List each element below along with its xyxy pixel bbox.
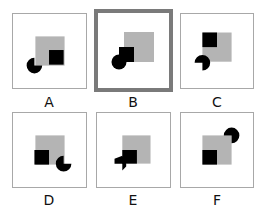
option-e-panel[interactable] — [96, 112, 171, 188]
small-black-square-icon — [202, 33, 217, 48]
option-a-label: A — [39, 95, 59, 109]
small-black-square-icon — [202, 150, 217, 165]
option-a-panel[interactable] — [12, 13, 87, 89]
option-d-panel[interactable] — [12, 112, 87, 188]
option-b-label: B — [123, 95, 143, 109]
option-e-figure — [97, 113, 170, 187]
option-f-label: F — [207, 193, 227, 207]
small-black-square-icon — [34, 150, 49, 165]
pacman-icon — [56, 156, 72, 172]
option-b-figure — [98, 13, 169, 88]
option-c-label: C — [207, 95, 227, 109]
option-a-figure — [13, 14, 86, 88]
option-e-label: E — [123, 193, 143, 207]
pacman-icon — [195, 55, 211, 71]
option-b-panel[interactable] — [94, 9, 173, 92]
option-c-figure — [181, 14, 253, 88]
option-d-figure — [13, 113, 86, 187]
option-f-panel[interactable] — [180, 112, 254, 188]
option-f-figure — [181, 113, 253, 187]
option-d-label: D — [39, 193, 59, 207]
pacman-icon — [112, 55, 127, 70]
option-c-panel[interactable] — [180, 13, 254, 89]
small-black-square-icon — [49, 50, 64, 65]
